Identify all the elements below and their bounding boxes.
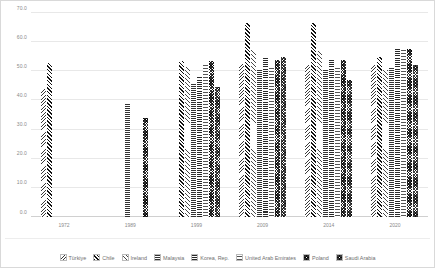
bar	[239, 64, 244, 217]
bar	[329, 60, 334, 217]
legend-swatch-icon	[303, 254, 310, 261]
legend-label: Malaysia	[163, 255, 184, 261]
legend-item[interactable]: Malaysia	[154, 254, 184, 261]
bar-group: 2020	[362, 13, 428, 217]
plot-area: 70.060.050.040.030.020.010.00.0 19721989…	[31, 13, 428, 217]
y-axis-tick-label: 60.0	[17, 34, 27, 40]
bar	[269, 67, 274, 217]
legend-item[interactable]: Korea, Rep.	[191, 254, 229, 261]
bar	[215, 87, 220, 217]
bar	[257, 70, 262, 217]
bar	[383, 70, 388, 217]
bar	[197, 77, 202, 217]
y-axis-tick-label: 70.0	[17, 5, 27, 11]
bar	[125, 103, 130, 217]
legend-swatch-icon	[122, 254, 129, 261]
bar	[143, 118, 148, 217]
y-axis-tick-label: 20.0	[17, 150, 27, 156]
legend-swatch-icon	[154, 254, 161, 261]
bar	[311, 23, 316, 217]
legend-label: Korea, Rep.	[200, 255, 229, 261]
bar	[317, 51, 322, 217]
bar-group: 1972	[31, 13, 97, 217]
bar	[413, 65, 418, 217]
bar	[185, 67, 190, 217]
bar-group: 1999	[163, 13, 229, 217]
bar	[395, 49, 400, 217]
legend-item[interactable]: Saudi Arabia	[336, 254, 376, 261]
bar	[191, 84, 196, 217]
legend-label: Ireland	[131, 255, 147, 261]
y-axis-tick-label: 30.0	[17, 121, 27, 127]
bar	[47, 63, 52, 217]
bar-group: 2014	[296, 13, 362, 217]
legend-item[interactable]: Ireland	[122, 254, 147, 261]
legend-label: Poland	[312, 255, 329, 261]
bar	[275, 60, 280, 217]
legend-item[interactable]: United Arab Emirates	[236, 254, 296, 261]
x-axis-tick-label: 2009	[230, 222, 296, 228]
bar	[347, 80, 352, 217]
bar	[377, 57, 382, 217]
bar-group: 2009	[230, 13, 296, 217]
legend-label: United Arab Emirates	[245, 255, 296, 261]
bar-group: 1989	[97, 13, 163, 217]
legend-swatch-icon	[336, 254, 343, 261]
bar	[407, 49, 412, 217]
bar	[305, 65, 310, 217]
legend-swatch-icon	[60, 254, 67, 261]
x-axis-tick-label: 2014	[296, 222, 362, 228]
bar-groups: 197219891999200920142020	[31, 13, 428, 217]
legend-swatch-icon	[191, 254, 198, 261]
legend-label: Chile	[102, 255, 114, 261]
bar	[263, 57, 268, 217]
bar	[245, 23, 250, 217]
bar	[371, 65, 376, 217]
y-axis-tick-label: 40.0	[17, 92, 27, 98]
bar	[281, 57, 286, 217]
x-axis-tick-label: 1972	[31, 222, 97, 228]
legend-label: Türkiye	[69, 255, 87, 261]
legend-item[interactable]: Chile	[93, 254, 114, 261]
bar	[41, 89, 46, 217]
y-axis-tick-label: 10.0	[17, 179, 27, 185]
bar	[401, 48, 406, 217]
y-axis-tick-label: 0.0	[20, 209, 27, 215]
bar	[251, 49, 256, 217]
legend-label: Saudi Arabia	[345, 255, 376, 261]
bar	[209, 61, 214, 217]
bar	[323, 70, 328, 217]
x-axis-tick-label: 1989	[97, 222, 163, 228]
y-axis-tick-label: 50.0	[17, 63, 27, 69]
bar	[335, 67, 340, 217]
legend-item[interactable]: Poland	[303, 254, 329, 261]
legend-divider	[5, 238, 430, 239]
x-axis-tick-label: 1999	[163, 222, 229, 228]
bar	[389, 67, 394, 217]
legend-swatch-icon	[93, 254, 100, 261]
chart-legend: TürkiyeChileIrelandMalaysiaKorea, Rep.Un…	[1, 254, 434, 261]
legend-item[interactable]: Türkiye	[60, 254, 87, 261]
chart-figure: 70.060.050.040.030.020.010.00.0 19721989…	[0, 0, 435, 268]
bar	[179, 61, 184, 217]
bar	[203, 65, 208, 217]
legend-swatch-icon	[236, 254, 243, 261]
x-axis-tick-label: 2020	[362, 222, 428, 228]
bar	[341, 60, 346, 217]
